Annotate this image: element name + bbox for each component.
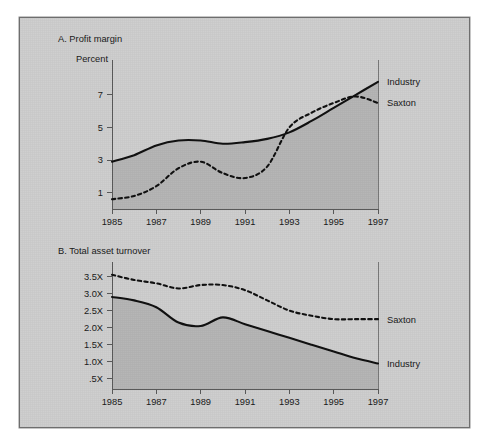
chart-b-x-tick-label: 1993 xyxy=(279,397,300,407)
chart-a-legend-label-saxton: Saxton xyxy=(387,98,416,108)
figure-root: A. Profit marginPercent13571985198719891… xyxy=(0,0,491,446)
chart-b-y-tick-label: 1.5X xyxy=(84,340,103,350)
chart-b-x-tick-label: 1989 xyxy=(190,397,211,407)
chart-a-legend-label-industry: Industry xyxy=(387,77,420,87)
chart-b-y-tick-label: 3.0X xyxy=(84,289,103,299)
chart-a-x-tick-label: 1993 xyxy=(279,217,300,227)
chart-a-x-tick-label: 1985 xyxy=(102,217,123,227)
chart-a-axis-unit-label: Percent xyxy=(76,54,108,64)
chart-a-x-tick-label: 1997 xyxy=(368,217,389,227)
chart-b-y-tick-label: 3.5X xyxy=(84,272,103,282)
chart-a-y-tick-label: 5 xyxy=(98,123,103,133)
chart-a-x-tick-label: 1995 xyxy=(323,217,344,227)
chart-b-legend-label-industry: Industry xyxy=(387,359,420,369)
chart-a-title: A. Profit margin xyxy=(58,34,122,44)
chart-b-plot: B. Total asset turnover3.5X3.0X2.5X2.0X1… xyxy=(20,240,471,429)
chart-a-x-tick-label: 1989 xyxy=(190,217,211,227)
chart-b-x-tick-label: 1997 xyxy=(368,397,389,407)
chart-b-container: B. Total asset turnover3.5X3.0X2.5X2.0X1… xyxy=(20,240,471,429)
chart-a-x-tick-label: 1987 xyxy=(146,217,167,227)
chart-b-y-tick-label: 2.5X xyxy=(84,306,103,316)
chart-b-x-tick-label: 1985 xyxy=(102,397,123,407)
chart-b-x-tick-label: 1987 xyxy=(146,397,167,407)
figure-panel: A. Profit marginPercent13571985198719891… xyxy=(19,17,470,428)
chart-b-y-tick-label: 2.0X xyxy=(84,323,103,333)
chart-b-legend-label-saxton: Saxton xyxy=(387,315,416,325)
chart-b-title: B. Total asset turnover xyxy=(58,246,150,256)
chart-a-container: A. Profit marginPercent13571985198719891… xyxy=(20,18,471,240)
chart-b-y-tick-label: .5X xyxy=(89,374,103,384)
chart-a-y-tick-label: 1 xyxy=(98,188,103,198)
chart-a-y-tick-label: 7 xyxy=(98,90,103,100)
chart-b-x-tick-label: 1995 xyxy=(323,397,344,407)
chart-b-y-tick-label: 1.0X xyxy=(84,357,103,367)
chart-a-x-tick-label: 1991 xyxy=(235,217,256,227)
chart-a-y-tick-label: 3 xyxy=(98,155,103,165)
chart-b-area-fill xyxy=(112,297,378,389)
chart-a-plot: A. Profit marginPercent13571985198719891… xyxy=(20,18,471,240)
chart-b-x-tick-label: 1991 xyxy=(235,397,256,407)
